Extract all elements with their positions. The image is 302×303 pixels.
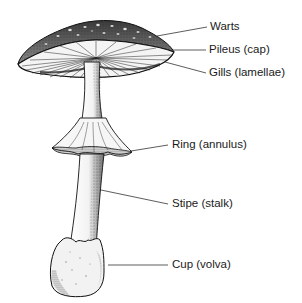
ring (52, 118, 132, 156)
mushroom-diagram: Warts Pileus (cap) Gills (lamellae) Ring… (0, 0, 302, 303)
label-gills: Gills (lamellae) (209, 67, 285, 79)
label-cup: Cup (volva) (172, 259, 231, 271)
label-stipe: Stipe (stalk) (172, 198, 233, 210)
gills-leader-line (165, 62, 206, 73)
label-ring: Ring (annulus) (172, 139, 247, 151)
warts-leader-line (157, 27, 207, 36)
ring-leader-line (131, 145, 168, 151)
volva (50, 238, 104, 297)
label-pileus: Pileus (cap) (209, 44, 270, 56)
label-warts: Warts (210, 21, 240, 33)
stipe-lower (70, 154, 104, 248)
stipe-leader-line (101, 190, 168, 204)
